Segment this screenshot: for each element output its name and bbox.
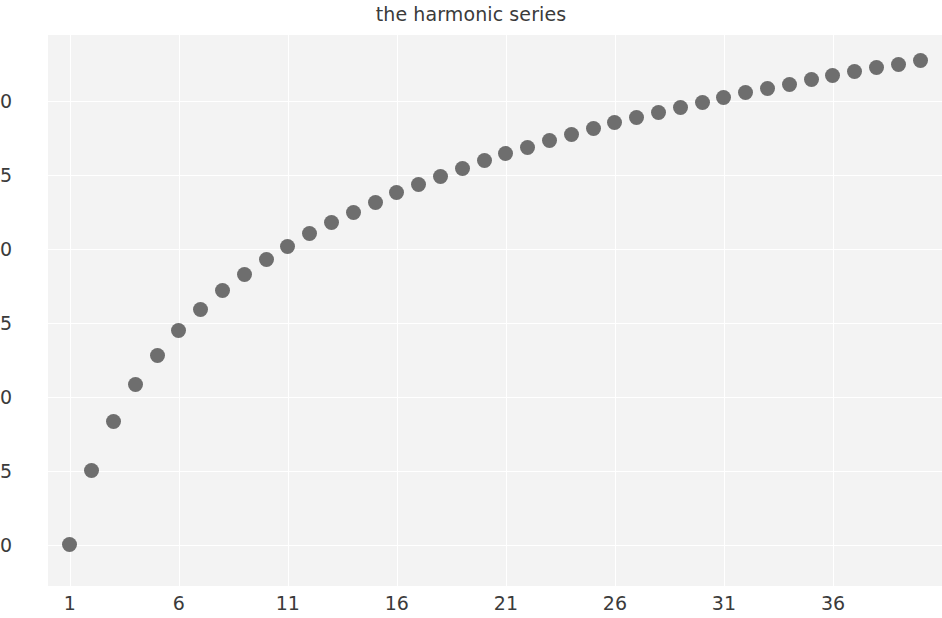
data-point bbox=[586, 121, 601, 136]
x-axis-tick-label: 26 bbox=[585, 592, 645, 614]
data-point bbox=[84, 463, 99, 478]
data-point bbox=[891, 57, 906, 72]
data-point bbox=[302, 226, 317, 241]
data-point bbox=[150, 348, 165, 363]
gridline-horizontal bbox=[48, 101, 942, 102]
data-point bbox=[498, 146, 513, 161]
data-point bbox=[651, 105, 666, 120]
y-axis-tick-label: 3.5 bbox=[0, 164, 12, 186]
data-point bbox=[346, 205, 361, 220]
x-axis-tick-label: 11 bbox=[258, 592, 318, 614]
data-point bbox=[760, 81, 775, 96]
gridline-vertical bbox=[179, 35, 180, 586]
data-point bbox=[913, 53, 928, 68]
data-point bbox=[782, 77, 797, 92]
x-axis-tick-label: 36 bbox=[803, 592, 863, 614]
data-point bbox=[259, 252, 274, 267]
y-axis-tick-label: 1.5 bbox=[0, 460, 12, 482]
x-axis-tick-label: 1 bbox=[40, 592, 100, 614]
data-point bbox=[455, 161, 470, 176]
chart-title: the harmonic series bbox=[0, 3, 942, 25]
data-point bbox=[738, 85, 753, 100]
gridline-horizontal bbox=[48, 471, 942, 472]
gridline-vertical bbox=[506, 35, 507, 586]
data-point bbox=[237, 267, 252, 282]
gridline-horizontal bbox=[48, 545, 942, 546]
gridline-horizontal bbox=[48, 175, 942, 176]
data-point bbox=[433, 169, 448, 184]
data-point bbox=[673, 100, 688, 115]
data-point bbox=[368, 195, 383, 210]
data-point bbox=[520, 140, 535, 155]
chart-figure: the harmonic series 1.01.52.02.53.03.54.… bbox=[0, 0, 942, 618]
data-point bbox=[629, 110, 644, 125]
y-axis-tick-label: 2.5 bbox=[0, 312, 12, 334]
data-point bbox=[106, 414, 121, 429]
data-point bbox=[804, 72, 819, 87]
gridline-horizontal bbox=[48, 249, 942, 250]
x-axis-tick-label: 21 bbox=[476, 592, 536, 614]
data-point bbox=[62, 537, 77, 552]
data-point bbox=[171, 323, 186, 338]
y-axis-tick-label: 1.0 bbox=[0, 534, 12, 556]
data-point bbox=[825, 68, 840, 83]
x-axis-tick-label: 31 bbox=[694, 592, 754, 614]
y-axis-tick-label: 4.0 bbox=[0, 90, 12, 112]
data-point bbox=[280, 239, 295, 254]
data-point bbox=[695, 95, 710, 110]
y-axis-tick-label: 2.0 bbox=[0, 386, 12, 408]
gridline-vertical bbox=[833, 35, 834, 586]
x-axis-tick-label: 6 bbox=[149, 592, 209, 614]
data-point bbox=[564, 127, 579, 142]
y-axis-tick-label: 3.0 bbox=[0, 238, 12, 260]
data-point bbox=[411, 177, 426, 192]
x-axis-tick-label: 16 bbox=[367, 592, 427, 614]
data-point bbox=[193, 302, 208, 317]
gridline-vertical bbox=[724, 35, 725, 586]
data-point bbox=[847, 64, 862, 79]
plot-area bbox=[48, 35, 942, 586]
gridline-vertical bbox=[397, 35, 398, 586]
data-point bbox=[215, 283, 230, 298]
data-point bbox=[542, 133, 557, 148]
gridline-vertical bbox=[288, 35, 289, 586]
data-point bbox=[128, 377, 143, 392]
data-point bbox=[324, 215, 339, 230]
gridline-vertical bbox=[70, 35, 71, 586]
data-point bbox=[869, 60, 884, 75]
data-point bbox=[716, 90, 731, 105]
gridline-horizontal bbox=[48, 397, 942, 398]
data-point bbox=[477, 153, 492, 168]
data-point bbox=[389, 185, 404, 200]
data-point bbox=[607, 115, 622, 130]
